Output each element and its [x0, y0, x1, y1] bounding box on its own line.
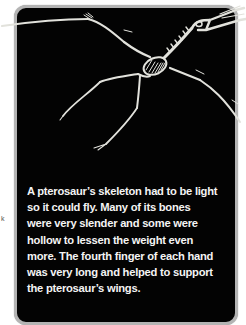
caption-line: so it could fly. Many of its bones [27, 199, 237, 215]
caption-text: A pterosaur’s skeleton had to be light s… [27, 183, 237, 296]
caption-line: was very long and helped to support [27, 264, 237, 280]
caption-line: more. The fourth finger of each hand [27, 248, 237, 264]
caption-line: the pterosaur’s wings. [27, 280, 237, 296]
caption-line: hollow to lessen the weight even [27, 232, 237, 248]
caption-line: A pterosaur’s skeleton had to be light [27, 183, 237, 199]
margin-stray-mark: k [1, 216, 5, 222]
caption-line: were very slender and some were [27, 215, 237, 231]
